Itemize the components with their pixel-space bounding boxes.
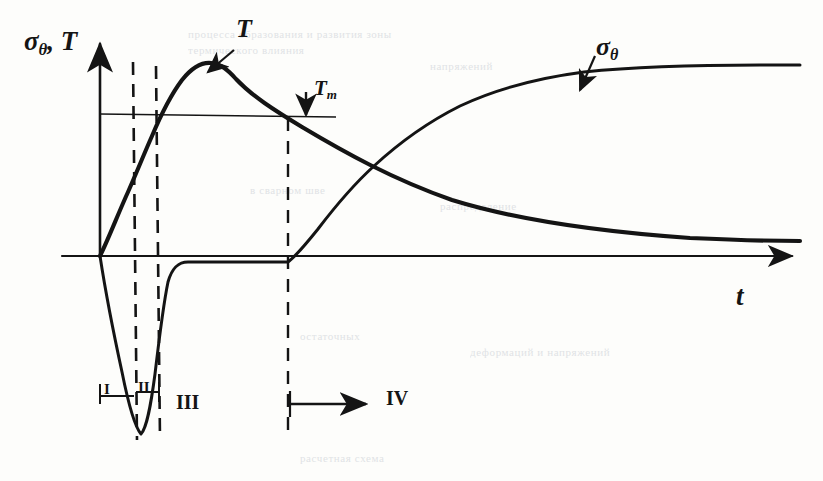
melting-level-label-text: T [314,76,327,100]
temperature-curve-label-text: T [236,14,252,43]
stage-marker-3: III [176,392,199,412]
x-axis-label: t [736,283,744,310]
stress-curve-label-text: σ [596,32,610,61]
temperature-label-arrow [208,50,234,72]
stage-marker-4: IV [386,388,408,408]
stage-divider-a [133,62,137,440]
y-axis-label-text: σ [24,26,39,56]
stage-divider-group [133,62,288,440]
stress-curve-label-subscript: θ [610,46,618,63]
y-axis-label-tail: , T [47,26,77,56]
stress-curve [100,65,800,434]
stress-curve-label: σθ [596,34,618,63]
y-axis-label-subscript: θ [39,40,48,59]
y-axis-label: σθ, T [24,28,77,58]
temperature-curve [100,63,800,256]
axis-group [62,44,792,256]
melting-level-label: Tm [314,78,337,101]
temperature-curve-label: T [236,16,252,42]
stage-marker-2: II [138,380,150,395]
plot-drawing [0,0,823,481]
figure-canvas: процесса образования и развития зонытерм… [0,0,823,481]
melting-level-line [100,114,336,117]
melting-level-line-group [100,114,336,117]
melting-level-label-subscript: m [327,87,337,102]
stage-marker-1: I [104,382,110,397]
stage4-span-arrow [290,391,366,417]
